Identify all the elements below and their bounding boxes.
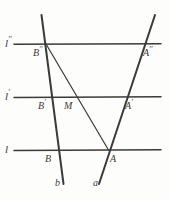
figure-canvas	[0, 0, 169, 200]
line-label-l0-text: l	[5, 143, 8, 155]
point-label-M-text: M	[64, 100, 72, 111]
parallel-line-l0	[14, 150, 161, 151]
point-label-B2: B′′	[33, 46, 43, 58]
point-label-B0-text: B	[45, 153, 51, 164]
parallel-lines-group	[14, 44, 161, 151]
point-label-A2: A′′	[143, 46, 153, 58]
point-label-A1-superscript: ′	[131, 98, 133, 107]
point-label-A2-superscript: ′′	[149, 45, 153, 54]
point-label-B1: B′	[38, 99, 46, 111]
line-label-l1: l′	[5, 89, 10, 102]
geometry-figure: l′′ l′ l b a B′′ A′′ B′ M A′ B A	[0, 0, 169, 200]
line-label-l2: l′′	[5, 36, 12, 49]
point-label-A1: A′	[125, 99, 133, 111]
parallel-line-l2	[14, 44, 161, 45]
transversal-label-b: b	[55, 178, 60, 188]
line-label-l0: l	[5, 142, 8, 155]
point-label-B2-superscript: ′′	[39, 45, 43, 54]
transversal-label-a: a	[93, 178, 98, 188]
point-label-B0: B	[45, 152, 51, 164]
point-label-A0: A	[110, 152, 116, 164]
transversals-group	[42, 15, 156, 184]
point-label-M: M	[64, 99, 72, 111]
point-label-A0-text: A	[110, 153, 116, 164]
line-label-l2-superscript: ′′	[8, 35, 12, 44]
point-label-B1-superscript: ′	[44, 98, 46, 107]
parallel-line-l1	[14, 97, 161, 98]
line-label-l1-superscript: ′	[8, 88, 10, 97]
